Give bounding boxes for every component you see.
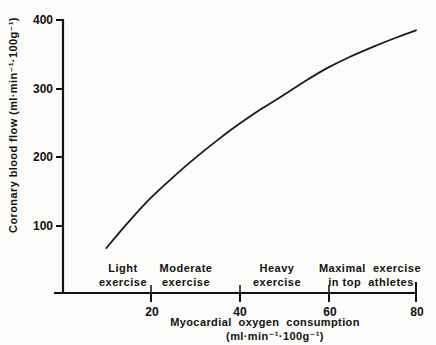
y-axis-ticks: 400 300 200 100 bbox=[33, 13, 63, 233]
zone-max-line1: Maximal exercise bbox=[319, 262, 421, 274]
y-tick-300: 300 bbox=[33, 82, 53, 96]
zone-light-line1: Light bbox=[108, 262, 137, 274]
zone-moderate-line2: exercise bbox=[162, 276, 210, 288]
data-series-curve bbox=[106, 30, 416, 248]
y-tick-100: 100 bbox=[33, 219, 53, 233]
zone-max-line2: in top athletes bbox=[328, 276, 414, 288]
x-axis-title: Myocardial oxygen consumption bbox=[170, 316, 360, 328]
y-axis-title: Coronary blood flow (ml·min⁻¹·100g⁻¹) bbox=[7, 17, 19, 233]
x-axis-units: (ml·min⁻¹·100g⁻¹) bbox=[226, 330, 324, 342]
exercise-zone-labels: Light exercise Moderate exercise Heavy e… bbox=[99, 262, 421, 288]
zone-heavy-line2: exercise bbox=[253, 276, 301, 288]
y-tick-200: 200 bbox=[33, 150, 53, 164]
x-tick-20: 20 bbox=[145, 305, 159, 319]
zone-moderate-line1: Moderate bbox=[160, 262, 213, 274]
zone-light-line2: exercise bbox=[99, 276, 147, 288]
x-tick-80: 80 bbox=[410, 305, 424, 319]
zone-heavy-line1: Heavy bbox=[260, 262, 295, 274]
chart-canvas: 400 300 200 100 20 40 60 80 Light exerci… bbox=[0, 0, 436, 345]
y-tick-400: 400 bbox=[33, 13, 53, 27]
